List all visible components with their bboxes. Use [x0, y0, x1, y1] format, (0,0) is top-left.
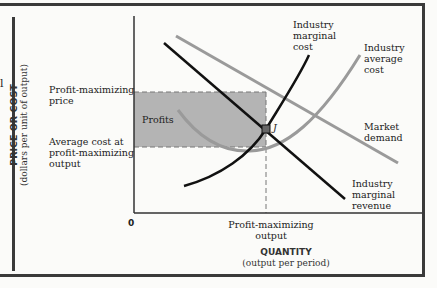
- average-cost-label: Average cost at profit-maximizing output: [49, 136, 134, 169]
- x-axis-label: QUANTITY (output per period): [226, 247, 346, 269]
- marginal-revenue-label: Industry marginal revenue: [352, 178, 395, 211]
- profit-maximizing-price-label: Profit-maximizing price: [49, 84, 134, 106]
- profits-label: Profits: [142, 114, 174, 125]
- market-demand-label: Market demand: [364, 121, 403, 143]
- average-cost-curve-label: Industry average cost: [364, 42, 405, 75]
- marginal-cost-label: Industry marginal cost: [293, 19, 336, 52]
- point-j-marker: [262, 125, 270, 133]
- origin-label: 0: [128, 218, 134, 229]
- x-axis-title: QUANTITY: [226, 247, 346, 258]
- point-j-label: J: [273, 122, 277, 133]
- profit-maximizing-output-label: Profit-maximizing output: [216, 219, 326, 241]
- x-axis-subtitle: (output per period): [226, 258, 346, 269]
